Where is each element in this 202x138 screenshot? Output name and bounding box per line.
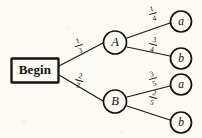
- edge-b-node-to-leaf-b: [127, 106, 170, 120]
- begin-node-label: Begin: [19, 62, 52, 77]
- leaf-b-top-label: b: [178, 52, 184, 64]
- leaf-b-bottom-label: b: [178, 116, 184, 128]
- diagram-canvas: Begin A B a b a b: [0, 0, 202, 138]
- leaf-a-top-label: a: [178, 15, 184, 27]
- node-a-label: A: [110, 35, 119, 49]
- probability-tree-diagram: Begin A B a b a b 1 3 2 3 1 4 3: [0, 0, 202, 138]
- leaf-a-bottom-label: a: [178, 78, 184, 90]
- node-b-label: B: [111, 94, 119, 108]
